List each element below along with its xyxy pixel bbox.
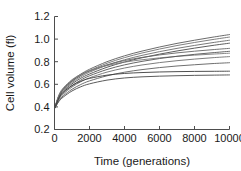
x-tick-label: 0 [51, 132, 57, 144]
cell-volume-line-chart: 0.20.40.60.81.01.2 020004000600080001000… [0, 0, 241, 171]
x-tick-label: 6000 [147, 132, 171, 144]
x-tick-label: 8000 [182, 132, 206, 144]
y-tick-label: 1.0 [34, 33, 49, 45]
x-tick-label: 10000 [214, 132, 241, 144]
y-tick-label: 1.2 [34, 10, 49, 22]
y-axis-title: Cell volume (fl) [4, 34, 16, 111]
y-tick-label: 0.2 [34, 123, 49, 135]
plot-series-group [55, 35, 230, 109]
x-axis-tick-labels: 0200040006000800010000 [51, 132, 241, 144]
y-axis-tick-labels: 0.20.40.60.81.01.2 [34, 10, 49, 135]
x-axis-title: Time (generations) [94, 155, 190, 167]
x-axis-ticks [55, 126, 230, 130]
y-tick-label: 0.8 [34, 56, 49, 68]
series-line [55, 63, 230, 109]
y-tick-label: 0.6 [34, 78, 49, 90]
y-tick-label: 0.4 [34, 101, 49, 113]
chart-figure: 0.20.40.60.81.01.2 020004000600080001000… [0, 0, 241, 171]
x-tick-label: 2000 [77, 132, 101, 144]
x-tick-label: 4000 [112, 132, 136, 144]
y-axis-ticks [55, 17, 59, 130]
